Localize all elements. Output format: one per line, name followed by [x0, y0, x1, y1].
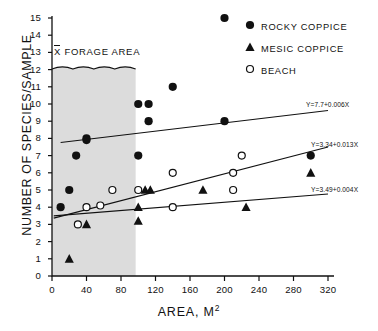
y-axis-tick-label: 14: [19, 29, 41, 40]
legend-symbol: [247, 66, 254, 73]
y-axis-tick-label: 12: [19, 64, 41, 75]
data-point-open-circle: [230, 169, 237, 176]
legend-item-label: BEACH: [261, 66, 297, 76]
y-axis-tick-label: 8: [19, 132, 41, 143]
data-point-filled-circle: [72, 152, 80, 160]
x-axis-tick-label: 40: [72, 284, 102, 295]
chart-figure: NUMBER OF SPECIES/SAMPLE AREA, M2 012345…: [0, 0, 378, 331]
x-axis-tick-label: 320: [313, 284, 343, 295]
data-point-filled-circle: [82, 136, 90, 144]
data-point-open-circle: [109, 187, 116, 194]
y-axis-tick-label: 0: [19, 270, 41, 281]
data-point-filled-circle: [57, 203, 65, 211]
data-point-open-circle: [169, 169, 176, 176]
regression-equation-label: Y=7.7+0.006X: [306, 101, 349, 108]
y-axis-tick-label: 1: [19, 253, 41, 264]
x-axis-tick-label: 160: [175, 284, 205, 295]
y-axis-tick-label: 4: [19, 201, 41, 212]
y-axis-tick-label: 6: [19, 167, 41, 178]
y-axis-tick-label: 13: [19, 46, 41, 57]
regression-equation-label: Y=3.49+0.004X: [311, 186, 358, 193]
data-point-open-circle: [97, 202, 104, 209]
data-point-filled-circle: [169, 83, 177, 91]
x-axis-tick-label: 0: [37, 284, 67, 295]
y-axis-tick-label: 11: [19, 81, 41, 92]
legend-item-label: ROCKY COPPICE: [261, 22, 347, 32]
data-point-filled-circle: [134, 100, 142, 108]
data-point-filled-triangle: [242, 202, 251, 211]
data-point-open-circle: [74, 221, 81, 228]
forage-area-shading: [52, 67, 136, 276]
data-point-filled-circle: [307, 152, 315, 160]
data-point-filled-circle: [65, 186, 73, 194]
x-axis-tick-label: 80: [106, 284, 136, 295]
data-point-filled-circle: [220, 117, 228, 125]
legend-item-label: MESIC COPPICE: [261, 44, 344, 54]
data-point-open-circle: [169, 204, 176, 211]
x-axis-tick-label: 200: [210, 284, 240, 295]
legend-symbol: [246, 21, 254, 29]
x-axis-tick-label: 280: [279, 284, 309, 295]
legend-marker-open-circle: [243, 62, 257, 76]
legend-marker-filled-circle: [243, 18, 257, 32]
data-point-filled-circle: [220, 14, 228, 22]
data-point-filled-triangle: [198, 185, 207, 194]
data-point-open-circle: [230, 187, 237, 194]
forage-area-text: FORAGE AREA: [61, 46, 140, 57]
y-axis-tick-label: 15: [19, 12, 41, 23]
y-axis-tick-label: 5: [19, 184, 41, 195]
data-point-filled-circle: [145, 100, 153, 108]
data-point-open-circle: [135, 187, 142, 194]
y-axis-tick-label: 3: [19, 218, 41, 229]
y-axis-tick-label: 9: [19, 115, 41, 126]
x-axis-tick-label: 240: [244, 284, 274, 295]
data-point-filled-circle: [145, 117, 153, 125]
data-point-open-circle: [83, 204, 90, 211]
forage-mean-symbol: X: [54, 46, 61, 57]
legend-marker-filled-triangle: [243, 40, 257, 54]
x-axis-tick-label: 120: [141, 284, 171, 295]
legend-symbol: [245, 42, 254, 51]
y-axis-tick-label: 2: [19, 236, 41, 247]
y-axis-tick-label: 7: [19, 150, 41, 161]
data-point-open-circle: [238, 152, 245, 159]
regression-equation-label: Y=3.34+0.013X: [311, 141, 358, 148]
y-axis-tick-label: 10: [19, 98, 41, 109]
data-point-filled-triangle: [306, 168, 315, 177]
data-point-filled-circle: [134, 152, 142, 160]
forage-area-annotation: X FORAGE AREA: [54, 46, 140, 57]
